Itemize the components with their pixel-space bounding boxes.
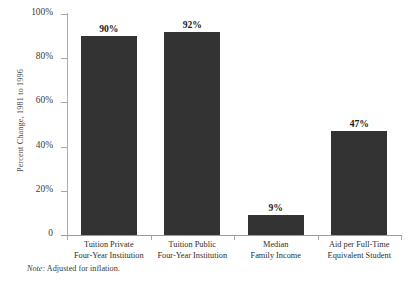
chart-note-prefix: Note: [27, 264, 45, 273]
x-axis-category-line: Four-Year Institution [67, 251, 151, 262]
plot-area: 90%92%9%47% [67, 14, 401, 235]
y-axis-tick-label: 40% [36, 140, 53, 150]
x-axis-category-line: Tuition Public [151, 240, 235, 251]
bar-value-label: 47% [331, 118, 387, 129]
chart-note: Note: Adjusted for inflation. [27, 264, 120, 273]
x-axis-category-label: Aid per Full-TimeEquivalent Student [318, 240, 402, 261]
y-axis-tick: 40% [0, 147, 67, 148]
y-axis-tick: 0 [0, 235, 67, 236]
y-axis-tick-label: 60% [36, 95, 53, 105]
x-axis-category-line: Tuition Private [67, 240, 151, 251]
y-axis-tick: 100% [0, 14, 67, 15]
x-axis-category-label: Tuition PublicFour-Year Institution [151, 240, 235, 261]
bar-group: 90% [81, 14, 137, 235]
x-axis-category-line: Equivalent Student [318, 251, 402, 262]
y-axis-tick-label: 0 [48, 228, 53, 238]
bar[interactable] [331, 131, 387, 235]
x-axis-category-line: Aid per Full-Time [318, 240, 402, 251]
bar[interactable] [81, 36, 137, 235]
bar[interactable] [164, 32, 220, 235]
bar-chart-figure: Percent Change, 1981 to 1996 020%40%60%8… [0, 0, 408, 281]
x-axis-tick-mark [401, 235, 402, 240]
x-axis-category-label: MedianFamily Income [234, 240, 318, 261]
x-axis-category-line: Median [234, 240, 318, 251]
x-axis-category-label: Tuition PrivateFour-Year Institution [67, 240, 151, 261]
y-axis-title-label: Percent Change, 1981 to 1996 [17, 68, 26, 171]
chart-note-text: Adjusted for inflation. [47, 264, 120, 273]
bar-group: 47% [331, 14, 387, 235]
bar-group: 9% [248, 14, 304, 235]
bar-value-label: 92% [164, 19, 220, 30]
y-axis-tick: 20% [0, 191, 67, 192]
y-axis-tick-label: 100% [31, 7, 53, 17]
y-axis-tick: 80% [0, 58, 67, 59]
x-axis-category-line: Family Income [234, 251, 318, 262]
y-axis-tick-label: 20% [36, 184, 53, 194]
y-axis-title: Percent Change, 1981 to 1996 [14, 0, 28, 240]
bar-group: 92% [164, 14, 220, 235]
y-axis-tick-label: 80% [36, 51, 53, 61]
bar-value-label: 90% [81, 23, 137, 34]
bar-value-label: 9% [248, 202, 304, 213]
bar[interactable] [248, 215, 304, 235]
y-axis-tick: 60% [0, 102, 67, 103]
x-axis-category-line: Four-Year Institution [151, 251, 235, 262]
